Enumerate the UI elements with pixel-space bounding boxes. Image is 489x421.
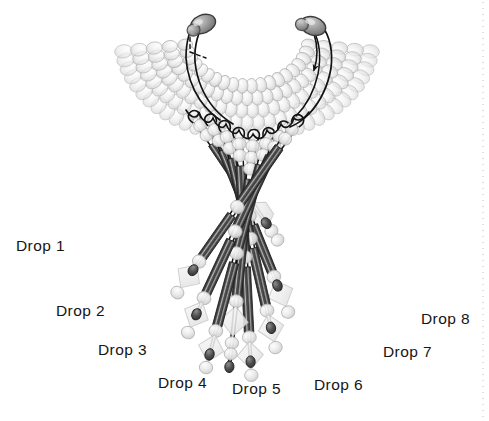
seed-bead [268,340,284,355]
clasp-left[interactable] [183,11,218,39]
label-drop-6: Drop 6 [314,377,363,393]
seed-bead [198,360,214,375]
diamond-bead [195,331,227,365]
label-drop-8: Drop 8 [421,311,470,327]
end-bead [246,356,256,368]
label-drop-2: Drop 2 [56,303,105,319]
collar-bead-rows [114,38,380,143]
clasp-beads [183,11,328,39]
label-drop-5: Drop 5 [232,381,281,397]
seed-bead [179,324,196,341]
clasp-right[interactable] [294,12,329,39]
beading-diagram-figure: Drop 1Drop 2Drop 3Drop 4Drop 5Drop 6Drop… [0,0,489,421]
label-drop-1: Drop 1 [16,238,65,254]
label-drop-3: Drop 3 [98,342,147,358]
label-drop-4: Drop 4 [158,375,207,391]
seed-bead [232,137,246,150]
end-bead [224,361,234,373]
seed-bead [280,304,297,321]
seed-bead [224,347,238,360]
drop-strands [163,105,312,382]
label-drop-7: Drop 7 [383,344,432,360]
